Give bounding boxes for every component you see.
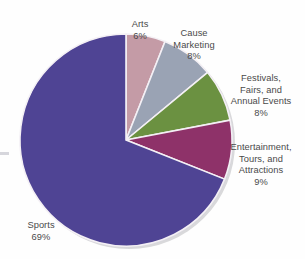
pie-label-festivals-value: 8%	[220, 108, 302, 119]
pie-label-cause-marketing-value: 8%	[158, 51, 230, 62]
pie-label-festivals-name: Festivals, Fairs, and Annual Events	[231, 73, 292, 106]
pie-label-sports-value: 69%	[8, 232, 74, 243]
pie-label-entertainment-value: 9%	[218, 177, 304, 188]
pie-label-entertainment-tours-attractions: Entertainment, Tours, and Attractions 9%	[218, 131, 304, 199]
pie-chart-figure: Arts 6% Cause Marketing 8% Festivals, Fa…	[0, 0, 305, 259]
pie-label-entertainment-name: Entertainment, Tours, and Attractions	[230, 142, 291, 175]
pie-label-sports: Sports 69%	[8, 209, 74, 255]
pie-label-arts-name: Arts	[132, 19, 149, 29]
pie-label-festivals-fairs-annual-events: Festivals, Fairs, and Annual Events 8%	[220, 62, 302, 130]
pie-label-cause-marketing-name: Cause Marketing	[173, 28, 214, 49]
page-edge-artifact	[0, 152, 9, 155]
pie-label-sports-name: Sports	[27, 220, 54, 230]
